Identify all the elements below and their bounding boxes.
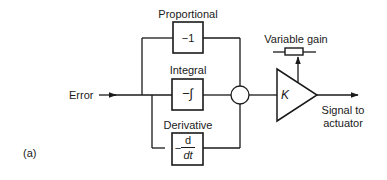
pid-block-diagram: Error Proportional −1 Integral −∫ Deriva… [0,0,387,180]
amplifier-gain-label: K [281,89,289,101]
error-label: Error [69,89,93,101]
integral-label: Integral [170,64,207,76]
output-label-line1: Signal to [322,104,365,116]
proportional-gain: −1 [173,32,203,44]
variable-gain-label: Variable gain [264,33,327,45]
fraction-bar [181,147,195,148]
derivative-numerator: d [185,134,191,146]
integral-symbol: −∫ [172,88,203,100]
variable-gain-resistor [285,48,303,55]
derivative-label: Derivative [164,119,213,131]
derivative-operator: d dt [181,134,195,161]
figure-label: (a) [23,147,36,159]
derivative-denominator: dt [183,149,192,161]
output-label-line2: actuator [323,117,363,129]
proportional-label: Proportional [158,8,217,20]
summing-junction [231,86,249,104]
